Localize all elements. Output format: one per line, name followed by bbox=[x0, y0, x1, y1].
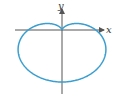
cardioid-diagram: x y bbox=[0, 0, 117, 99]
x-axis-label: x bbox=[106, 24, 112, 35]
y-axis-label: y bbox=[57, 0, 64, 11]
